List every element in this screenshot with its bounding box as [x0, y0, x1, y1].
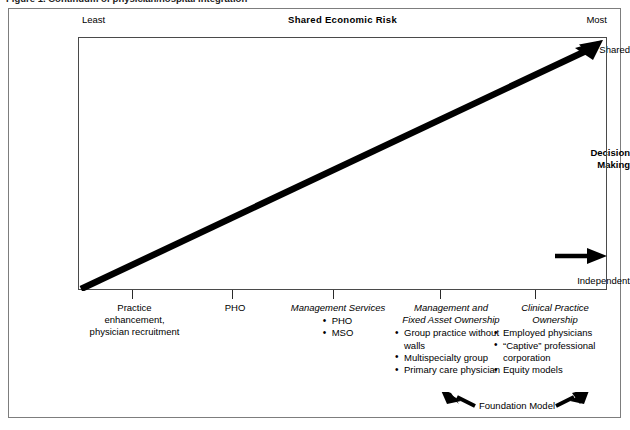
category-item-list: •Group practice without walls •Multispec… [395, 327, 507, 376]
foundation-model-annotation: Foundation Model [437, 392, 612, 420]
x-axis-most-label: Most [586, 14, 607, 25]
figure-caption-strip: Figure 1. Continuum of physician/hospita… [0, 0, 630, 7]
category-management-fixed-asset-ownership: Management and Fixed Asset Ownership •Gr… [395, 302, 507, 376]
direction-arrow-icon [555, 248, 607, 264]
bullet-icon: • [395, 327, 399, 339]
list-item: •Employed physicians [494, 327, 616, 339]
foundation-model-label: Foundation Model [479, 400, 555, 411]
x-tick-4 [440, 290, 441, 299]
bullet-icon: • [323, 315, 327, 327]
continuum-arrow-icon [81, 40, 603, 289]
x-axis-title: Shared Economic Risk [78, 14, 607, 25]
list-item: •Group practice without walls [395, 327, 507, 351]
category-clinical-practice-ownership: Clinical Practice Ownership •Employed ph… [494, 302, 616, 376]
chart-top-header: Least Shared Economic Risk Most [78, 14, 607, 28]
x-tick-2 [232, 290, 233, 299]
category-title-line-2: enhancement, [72, 314, 197, 326]
x-tick-3 [333, 290, 334, 299]
plot-graphics [79, 38, 608, 291]
category-title-line-1: Management and [395, 302, 507, 314]
list-item: •MSO [323, 327, 354, 339]
bullet-icon: • [395, 351, 399, 363]
category-pho: PHO [190, 302, 280, 314]
list-item-label: “Captive” professional corporation [503, 340, 595, 363]
list-item: •“Captive” professional corporation [494, 340, 616, 364]
list-item-label: MSO [332, 327, 354, 338]
bullet-icon: • [395, 364, 399, 376]
x-tick-1 [132, 290, 133, 299]
bullet-icon: • [494, 339, 498, 351]
category-title-line-3: physician recruitment [72, 326, 197, 338]
category-item-list: •PHO •MSO [323, 315, 354, 339]
bullet-icon: • [494, 327, 498, 339]
list-item-label: Equity models [503, 364, 563, 375]
list-item-label: Group practice without walls [404, 327, 499, 350]
category-title-line-1: Practice [72, 302, 197, 314]
category-title-line-1: Clinical Practice [494, 302, 616, 314]
list-item: •Equity models [494, 364, 616, 376]
list-item-label: Primary care physician [404, 364, 500, 375]
category-management-services: Management Services •PHO •MSO [283, 302, 393, 340]
x-axis-ticks [78, 290, 607, 299]
x-tick-5 [535, 290, 536, 299]
list-item: •Multispecialty group [395, 352, 507, 364]
category-title-line-2: Ownership [494, 314, 616, 326]
list-item-label: Employed physicians [503, 327, 592, 338]
list-item-label: Multispecialty group [404, 352, 488, 363]
arrow-left-icon [440, 392, 475, 406]
figure-caption: Figure 1. Continuum of physician/hospita… [6, 0, 247, 4]
category-item-list: •Employed physicians •“Captive” professi… [494, 327, 616, 376]
category-title-line-2: Fixed Asset Ownership [395, 314, 507, 326]
category-title-line-1: Management Services [283, 302, 393, 314]
arrow-right-icon [556, 392, 590, 406]
list-item: •Primary care physician [395, 364, 507, 376]
list-item-label: PHO [332, 315, 353, 326]
bullet-icon: • [494, 364, 498, 376]
category-practice-enhancement: Practice enhancement, physician recruitm… [72, 302, 197, 339]
plot-area [78, 37, 607, 290]
list-item: •PHO [323, 315, 354, 327]
bullet-icon: • [323, 327, 327, 339]
category-title-line-1: PHO [190, 302, 280, 314]
